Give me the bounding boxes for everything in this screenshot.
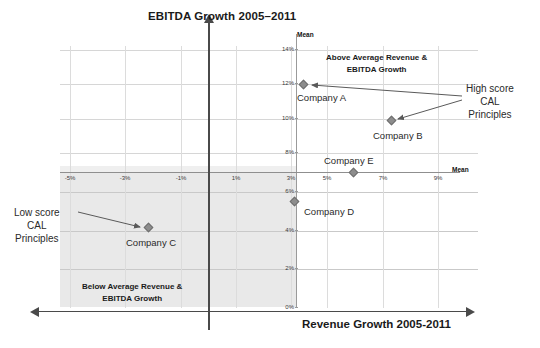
ytick-14: 14% xyxy=(274,46,294,52)
x-axis-right-arrow-icon xyxy=(466,307,475,317)
ytick-8: 8% xyxy=(274,149,294,155)
x-axis-title: Revenue Growth 2005-2011 xyxy=(302,318,451,330)
xtick-p9: 9% xyxy=(427,175,449,181)
ytick-6: 6% xyxy=(274,188,294,194)
ytick-14-text: 14% xyxy=(282,46,294,52)
data-label-company-b: Company B xyxy=(373,130,423,141)
gridline-4 xyxy=(60,231,478,232)
above-average-note-line1: Above Average Revenue & xyxy=(326,52,427,64)
data-point-company-b[interactable] xyxy=(387,116,397,126)
xtick-m1: -1% xyxy=(170,175,192,181)
xtick-m5: -5% xyxy=(59,175,81,181)
high-score-note-line2: CAL xyxy=(466,95,514,108)
mean-y-axis-line xyxy=(296,34,297,308)
gridline-12 xyxy=(60,84,478,85)
y-axis-main-line xyxy=(208,20,210,330)
high-score-note-line3: Principles xyxy=(466,108,514,121)
gridline-8 xyxy=(60,153,478,154)
low-score-note-line1: Low score xyxy=(14,206,60,219)
low-score-cal-note: Low score CAL Principles xyxy=(14,206,60,245)
data-point-company-a[interactable] xyxy=(299,80,309,90)
ytick-4-text: 4% xyxy=(285,227,294,233)
ytick-6-text: 6% xyxy=(285,188,294,194)
ytick-10: 10% xyxy=(274,115,294,121)
gridline-6 xyxy=(60,192,478,193)
data-label-company-d: Company D xyxy=(304,206,354,217)
below-average-note: Below Average Revenue & EBITDA Growth xyxy=(82,281,182,305)
data-point-company-e[interactable] xyxy=(349,168,359,178)
xtick-p3: 3% xyxy=(280,175,302,181)
ytick-12: 12% xyxy=(274,80,294,86)
data-label-company-c: Company C xyxy=(126,237,176,248)
ytick-12-text: 12% xyxy=(282,80,294,86)
arrow-to-company-b xyxy=(398,100,462,119)
gridline-14 xyxy=(60,50,478,51)
gridline-10 xyxy=(60,119,478,120)
above-average-note-line2: EBITDA Growth xyxy=(326,64,427,76)
ytick-10-text: 10% xyxy=(282,115,294,121)
ytick-4: 4% xyxy=(274,227,294,233)
x-axis-right-line xyxy=(296,311,468,312)
below-average-note-line2: EBITDA Growth xyxy=(82,293,182,305)
mean-label-vertical: Mean xyxy=(297,31,314,38)
xtick-m3: -3% xyxy=(114,175,136,181)
low-score-note-line2: CAL xyxy=(14,219,60,232)
ytick-0-text: 0% xyxy=(285,304,294,310)
ytick-8-text: 8% xyxy=(285,149,294,155)
xtick-p5: 5% xyxy=(316,175,338,181)
high-score-cal-note: High score CAL Principles xyxy=(466,82,514,121)
gridline-2 xyxy=(60,269,478,270)
above-average-note: Above Average Revenue & EBITDA Growth xyxy=(326,52,427,76)
chart-canvas: EBITDA Growth 2005–2011 Revenue Growth 2… xyxy=(0,0,540,348)
mean-label-horizontal: Mean xyxy=(452,166,469,173)
data-label-company-e: Company E xyxy=(324,155,374,166)
chart-title: EBITDA Growth 2005–2011 xyxy=(148,10,296,22)
low-score-note-line3: Principles xyxy=(14,232,60,245)
ytick-0: 0% xyxy=(274,304,294,310)
x-axis-left-line xyxy=(36,311,310,312)
high-score-note-line1: High score xyxy=(466,82,514,95)
mean-x-axis-line xyxy=(60,172,460,173)
data-label-company-a: Company A xyxy=(297,92,346,103)
ytick-2: 2% xyxy=(274,265,294,271)
xtick-p7: 7% xyxy=(372,175,394,181)
ytick-2-text: 2% xyxy=(285,265,294,271)
xtick-p1: 1% xyxy=(225,175,247,181)
below-average-note-line1: Below Average Revenue & xyxy=(82,281,182,293)
